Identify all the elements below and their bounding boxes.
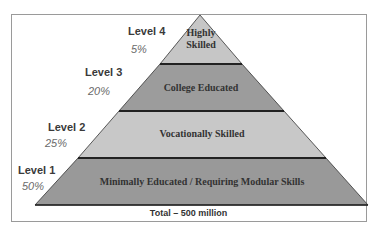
level-4-percent: 5% <box>131 43 147 55</box>
level-1-percent: 50% <box>22 180 44 192</box>
level-4-description-line2: Skilled <box>186 39 215 51</box>
level-4-description-line1: Highly <box>186 27 215 39</box>
level-3-label: Level 3 <box>85 66 122 78</box>
total-label: Total – 500 million <box>0 208 377 218</box>
level-3-percent: 20% <box>88 85 110 97</box>
level-3-description: College Educated <box>164 82 239 93</box>
level-4-label: Level 4 <box>128 25 165 37</box>
level-4-description: Highly Skilled <box>186 27 215 51</box>
level-2-percent: 25% <box>45 137 67 149</box>
level-1-label: Level 1 <box>18 164 55 176</box>
level-2-description: Vocationally Skilled <box>160 128 245 139</box>
level-1-description: Minimally Educated / Requiring Modular S… <box>100 176 305 187</box>
level-2-label: Level 2 <box>48 121 85 133</box>
